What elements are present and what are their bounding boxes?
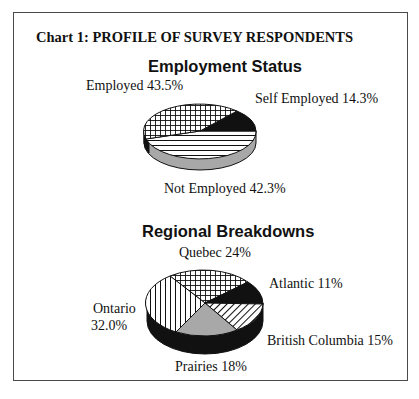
employment-pie <box>144 104 257 170</box>
regional-pie <box>145 270 263 354</box>
pie-charts <box>0 0 419 399</box>
